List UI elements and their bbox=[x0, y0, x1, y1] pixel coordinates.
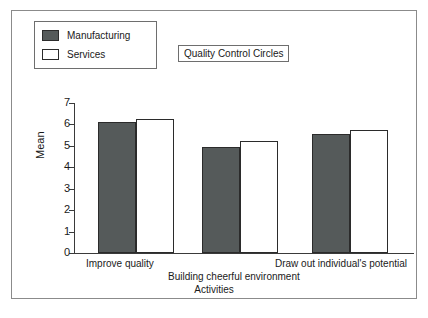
legend-label-services: Services bbox=[67, 49, 105, 60]
bar-1-manufacturing bbox=[202, 147, 240, 253]
y-tick-5: 5 bbox=[74, 146, 75, 147]
bar-0-manufacturing bbox=[98, 122, 136, 253]
y-tick-1: 1 bbox=[74, 232, 75, 233]
y-tick-label: 5 bbox=[52, 139, 70, 151]
x-tick-label-1: Building cheerful environment bbox=[168, 271, 300, 283]
y-tick-label: 2 bbox=[52, 203, 70, 215]
chart-figure: Manufacturing Services Quality Control C… bbox=[11, 10, 417, 299]
y-tick-4: 4 bbox=[74, 167, 75, 168]
bar-2-manufacturing bbox=[312, 134, 350, 253]
y-tick-7: 7 bbox=[74, 103, 75, 104]
x-tick-label-0: Improve quality bbox=[86, 258, 154, 270]
y-tick-label: 1 bbox=[52, 225, 70, 237]
y-tick-label: 3 bbox=[52, 182, 70, 194]
bar-2-services bbox=[350, 130, 388, 253]
y-tick-3: 3 bbox=[74, 189, 75, 190]
x-axis-title: Activities bbox=[12, 284, 416, 296]
y-axis-title: Mean bbox=[34, 131, 46, 159]
legend-swatch-services bbox=[42, 49, 59, 60]
chart-title: Quality Control Circles bbox=[184, 48, 283, 59]
y-tick-2: 2 bbox=[74, 210, 75, 211]
x-axis-line bbox=[74, 253, 414, 254]
y-axis-line bbox=[74, 103, 75, 253]
legend-item-manufacturing: Manufacturing bbox=[42, 26, 156, 45]
legend-label-manufacturing: Manufacturing bbox=[67, 30, 130, 41]
x-tick-label-2: Draw out individual's potential bbox=[275, 258, 407, 270]
y-tick-label: 7 bbox=[52, 96, 70, 108]
chart-legend: Manufacturing Services bbox=[34, 21, 157, 69]
legend-item-services: Services bbox=[42, 45, 156, 64]
plot-area: 01234567 bbox=[74, 103, 414, 253]
y-tick-0: 0 bbox=[74, 253, 75, 254]
bar-0-services bbox=[136, 119, 174, 253]
legend-swatch-manufacturing bbox=[42, 30, 59, 41]
y-tick-label: 6 bbox=[52, 117, 70, 129]
y-tick-6: 6 bbox=[74, 124, 75, 125]
bar-1-services bbox=[240, 141, 278, 254]
y-tick-label: 4 bbox=[52, 160, 70, 172]
chart-title-box: Quality Control Circles bbox=[178, 45, 289, 62]
y-tick-label: 0 bbox=[52, 246, 70, 258]
